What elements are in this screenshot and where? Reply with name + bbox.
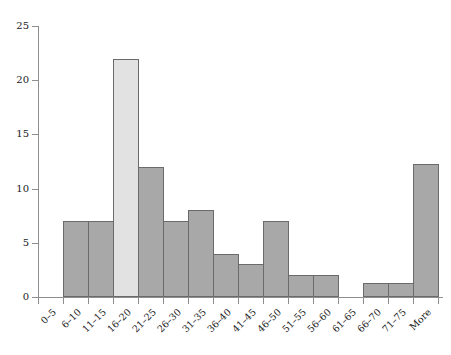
x-axis-tick-label: 0–5: [39, 307, 58, 326]
x-axis-tick-label: More: [407, 307, 432, 332]
histogram-chart: 0510152025 0–56–1011–1516–2021–2526–3031…: [0, 0, 451, 355]
x-axis-tick-labels: 0–56–1011–1516–2021–2526–3031–3536–4041–…: [0, 0, 451, 355]
